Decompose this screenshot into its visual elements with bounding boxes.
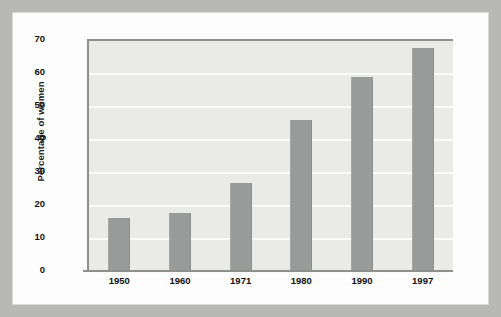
y-tick-label: 10 — [19, 231, 45, 242]
y-tick-label: 50 — [19, 99, 45, 110]
x-tick-label: 1997 — [397, 275, 449, 286]
gridline — [89, 73, 453, 75]
gridline — [89, 106, 453, 108]
bar[interactable] — [169, 213, 191, 272]
bar[interactable] — [412, 48, 434, 272]
x-tick-label: 1950 — [93, 275, 145, 286]
plot-area — [89, 39, 453, 272]
gridline — [89, 172, 453, 174]
y-tick-label: 0 — [19, 264, 45, 275]
bar[interactable] — [230, 183, 252, 272]
gridline — [89, 238, 453, 240]
bar-chart: Percentage of women 706050403020100 1950… — [13, 13, 488, 304]
x-axis-line — [83, 270, 453, 272]
bar[interactable] — [290, 120, 312, 272]
bar[interactable] — [108, 218, 130, 272]
figure-card: Percentage of women 706050403020100 1950… — [13, 13, 488, 304]
gridline — [89, 205, 453, 207]
y-tick-label: 20 — [19, 198, 45, 209]
y-tick-label: 70 — [19, 33, 45, 44]
y-tick-label: 30 — [19, 165, 45, 176]
figure-outer-mat: Percentage of women 706050403020100 1950… — [0, 0, 501, 317]
gridline — [89, 139, 453, 141]
x-tick-label: 1960 — [154, 275, 206, 286]
x-tick-label: 1990 — [336, 275, 388, 286]
bar[interactable] — [351, 77, 373, 272]
x-tick-label: 1980 — [275, 275, 327, 286]
y-tick-label: 40 — [19, 132, 45, 143]
x-tick-label: 1971 — [215, 275, 267, 286]
y-tick-label: 60 — [19, 66, 45, 77]
